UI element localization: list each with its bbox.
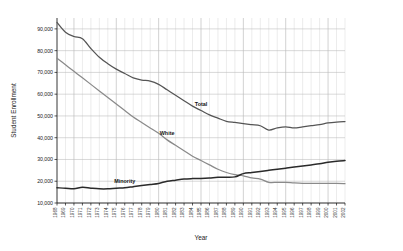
- y-tick-label: 20,000: [37, 178, 53, 184]
- x-tick-label: 1986: [205, 207, 210, 218]
- student-enrollment-line-chart: 10,00020,00030,00040,00050,00060,00070,0…: [0, 0, 403, 251]
- y-tick-label: 90,000: [37, 26, 53, 32]
- y-tick-label: 80,000: [37, 48, 53, 54]
- x-tick-label: 2000: [324, 207, 329, 218]
- chart-container: 10,00020,00030,00040,00050,00060,00070,0…: [0, 0, 403, 251]
- x-tick-label: 1984: [189, 207, 194, 218]
- x-tick-label: 1995: [282, 207, 287, 218]
- y-tick-label: 50,000: [37, 113, 53, 119]
- y-tick-label: 60,000: [37, 91, 53, 97]
- x-tick-label: 2001: [333, 207, 338, 218]
- y-axis-title: Student Enrollment: [10, 83, 17, 138]
- y-tick-label: 70,000: [37, 69, 53, 75]
- x-tick-label: 1979: [146, 207, 151, 218]
- x-tick-label: 1973: [95, 207, 100, 218]
- series-label-minority: Minority: [114, 178, 135, 184]
- x-tick-label: 1971: [78, 207, 83, 218]
- x-tick-label: 1983: [180, 207, 185, 218]
- y-tick-label: 10,000: [37, 200, 53, 206]
- x-tick-label: 1972: [87, 207, 92, 218]
- x-tick-label: 1989: [231, 207, 236, 218]
- x-tick-label: 1992: [256, 207, 261, 218]
- x-axis-title: Year: [195, 234, 209, 241]
- series-label-total: Total: [195, 101, 208, 107]
- x-tick-label: 1974: [104, 207, 109, 218]
- x-tick-label: 1981: [163, 207, 168, 218]
- x-tick-label: 1999: [316, 207, 321, 218]
- x-tick-label: 1994: [273, 207, 278, 218]
- x-tick-label: 1997: [299, 207, 304, 218]
- x-tick-label: 1990: [239, 207, 244, 218]
- x-tick-label: 1998: [307, 207, 312, 218]
- x-tick-label: 1996: [290, 207, 295, 218]
- x-tick-label: 1991: [248, 207, 253, 218]
- x-tick-label: 1988: [222, 207, 227, 218]
- y-tick-label: 30,000: [37, 156, 53, 162]
- x-tick-label: 1985: [197, 207, 202, 218]
- x-tick-label: 1978: [138, 207, 143, 218]
- x-tick-label: 1975: [112, 207, 117, 218]
- x-tick-label: 1987: [214, 207, 219, 218]
- x-tick-label: 1970: [70, 207, 75, 218]
- series-label-white: White: [160, 130, 175, 136]
- x-tick-label: 1993: [265, 207, 270, 218]
- x-tick-label: 1969: [61, 207, 66, 218]
- x-tick-label: 1982: [172, 207, 177, 218]
- x-tick-label: 1980: [155, 207, 160, 218]
- x-tick-label: 1977: [129, 207, 134, 218]
- x-tick-label: 1968: [53, 207, 58, 218]
- x-tick-label: 2002: [341, 207, 346, 218]
- x-tick-label: 1976: [121, 207, 126, 218]
- y-tick-label: 40,000: [37, 135, 53, 141]
